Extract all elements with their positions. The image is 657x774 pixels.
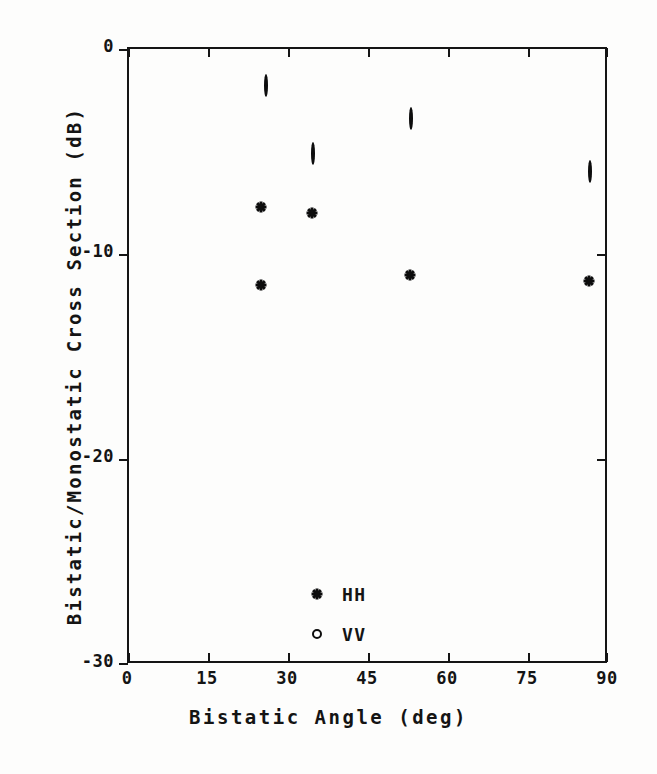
y-axis-title: Bistatic/Monostatic Cross Section (dB): [63, 56, 85, 676]
x-tick-45: [368, 653, 370, 662]
scatter-plot-figure: 0 -10 -20 -30 0 15 30 45 60 75 90 Bistat…: [0, 0, 657, 774]
x-tick-label-45: 45: [337, 668, 397, 688]
y-tick-m30: [119, 663, 128, 665]
x-tick-top-45: [368, 48, 370, 57]
y-tick-m10: [119, 254, 128, 256]
x-tick-label-15: 15: [177, 668, 237, 688]
x-tick-top-30: [288, 48, 290, 57]
y-tick-right-m10: [597, 254, 606, 256]
x-tick-top-75: [528, 48, 530, 57]
x-tick-label-30: 30: [257, 668, 317, 688]
y-tick-0: [119, 49, 128, 51]
x-tick-top-90: [606, 48, 608, 57]
x-tick-label-75: 75: [497, 668, 557, 688]
x-tick-90: [606, 653, 608, 662]
x-tick-0: [128, 653, 130, 662]
x-tick-30: [288, 653, 290, 662]
x-tick-label-0: 0: [97, 668, 157, 688]
x-axis-title: Bistatic Angle (deg): [0, 706, 657, 728]
x-tick-top-0: [128, 48, 130, 57]
x-tick-60: [448, 653, 450, 662]
x-tick-top-60: [448, 48, 450, 57]
x-tick-15: [208, 653, 210, 662]
legend-label-hh: HH: [342, 584, 367, 605]
x-tick-label-60: 60: [417, 668, 477, 688]
y-tick-m20: [119, 459, 128, 461]
legend-entry-hh: HH: [304, 574, 367, 614]
y-tick-right-m20: [597, 459, 606, 461]
x-tick-75: [528, 653, 530, 662]
legend: HH VV: [304, 574, 367, 654]
asterisk-marker-icon: [304, 589, 330, 600]
y-tick-label-0: 0: [44, 36, 114, 56]
circle-marker-icon: [304, 629, 330, 639]
x-tick-label-90: 90: [577, 668, 637, 688]
legend-entry-vv: VV: [304, 614, 367, 654]
legend-label-vv: VV: [342, 624, 367, 645]
x-tick-top-15: [208, 48, 210, 57]
plot-area: HH VV: [127, 47, 607, 663]
